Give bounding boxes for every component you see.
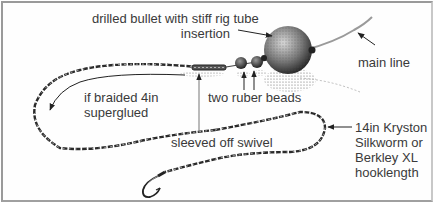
hooklength-label-line2: Silkworm or [355,135,427,150]
shadow-stipple [180,68,360,92]
hooklength-label-line1: 14in Kryston [355,120,427,135]
bullet-label-line2: insertion [92,26,230,41]
beads-label: two ruber beads [208,90,301,105]
braided-label-line2: superglued [84,105,158,120]
braided-label-line1: if braided 4in [84,90,158,105]
hooklength-label: 14in Kryston Silkworm or Berkley XL hook… [355,120,427,180]
main-line [305,17,372,50]
braided-label: if braided 4in superglued [84,90,158,120]
hook [143,172,165,197]
swivel-label: sleeved off swivel [171,135,273,150]
bullet-label: drilled bullet with stiff rig tube inser… [92,11,230,41]
swivel [192,65,226,70]
main-line-label: main line [358,55,410,70]
hooklength-label-line3: Berkley XL [355,150,427,165]
main-line-arrow [358,33,375,45]
hooklength-label-line4: hooklength [355,165,427,180]
main-line-label-text: main line [358,55,410,70]
bullet-label-line1: drilled bullet with stiff rig tube [92,11,230,26]
swivel-label-text: sleeved off swivel [171,135,273,150]
beads-label-text: two ruber beads [208,90,301,105]
rubber-bead-1 [235,57,247,69]
bullet-arrow [238,30,272,36]
